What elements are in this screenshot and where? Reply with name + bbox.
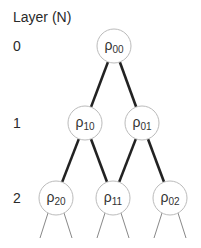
node-p10: ρ10 (68, 106, 102, 140)
edge-p10-p20 (62, 139, 79, 182)
continuation-edge (154, 213, 162, 238)
binary-tree-diagram: ρ00ρ10ρ01ρ20ρ11ρ02 (0, 0, 201, 248)
continuation-edge (64, 213, 72, 238)
continuation-edge (40, 213, 48, 238)
continuation-edge (178, 213, 186, 238)
continuation-edge (121, 213, 129, 238)
node-p01: ρ01 (125, 106, 159, 140)
edge-p01-p02 (148, 139, 164, 182)
node-p02: ρ02 (153, 181, 187, 215)
node-p20: ρ20 (39, 181, 73, 215)
node-p00: ρ00 (97, 29, 131, 63)
continuation-edge (97, 213, 105, 238)
edge-p00-p01 (120, 62, 136, 107)
node-p11: ρ11 (96, 181, 130, 215)
edge-p10-p11 (91, 139, 107, 182)
edge-p00-p10 (91, 62, 108, 107)
edge-p01-p11 (119, 139, 136, 182)
